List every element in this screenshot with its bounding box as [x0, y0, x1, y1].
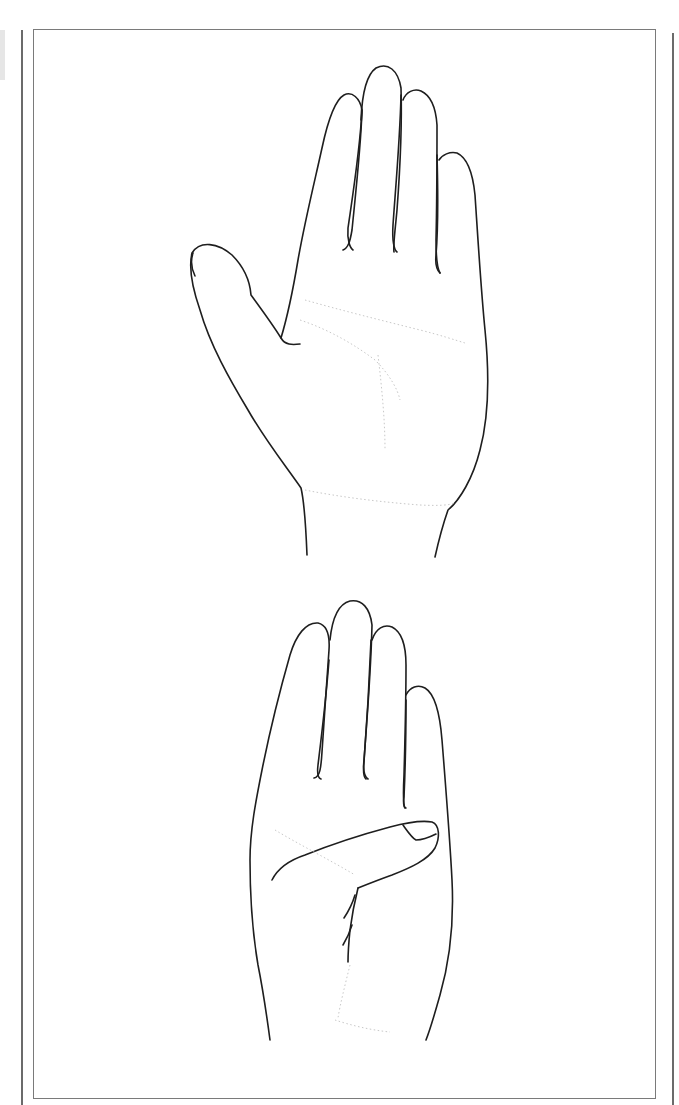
hand-folded-wrist-crease: [335, 1020, 390, 1032]
hand-folded-middle-gap: [364, 640, 371, 779]
hand-folded-little-finger: [406, 686, 453, 1040]
hand-folded-thumbnail: [403, 825, 436, 840]
hand-thumb-folded-illustration: [250, 601, 453, 1040]
hand-folded-middle-finger: [330, 601, 372, 779]
hand-open-middle-finger: [361, 66, 401, 252]
hand-open-illustration: [191, 66, 488, 557]
hand-open-outline: [191, 94, 362, 555]
illustration-canvas: [0, 0, 679, 1105]
hand-folded-outline-left: [250, 623, 329, 1040]
hand-open-heart-line: [305, 300, 465, 343]
hand-open-head-line: [300, 320, 400, 400]
hand-open-thumb-nail: [192, 253, 195, 276]
hand-open-wrist-crease: [305, 490, 455, 505]
hand-folded-life-line: [338, 965, 350, 1018]
hand-open-little-finger: [435, 152, 488, 557]
hand-folded-palm-line: [275, 830, 355, 875]
hand-open-life-line: [378, 355, 385, 450]
hand-folded-crease-branch-2: [343, 925, 352, 945]
hand-folded-thumb: [272, 821, 438, 888]
hand-open-ring-finger: [403, 90, 440, 273]
hand-folded-index-gap: [318, 660, 329, 779]
hand-open-thumb-web: [281, 338, 300, 344]
hand-open-index-gap: [348, 110, 362, 250]
hand-folded-ring-finger: [372, 626, 406, 808]
